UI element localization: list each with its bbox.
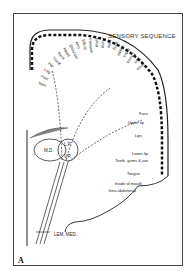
arc-label: Toes <box>37 80 47 88</box>
arc-label: Little <box>106 39 113 49</box>
body-part-label: Teeth, gums & jaw <box>115 158 148 163</box>
label-layer: ToesFootLegHipTrunkNeckHeadShoulderArmEl… <box>0 0 192 274</box>
body-part-label: Intra abdominal <box>108 188 136 193</box>
arc-label: Elbow <box>81 39 88 51</box>
body-part-label: Face <box>139 111 149 116</box>
arc-label: Wrist <box>94 38 99 48</box>
arc-label: Forearm <box>88 38 95 54</box>
body-part-label: Lower lip <box>132 151 149 156</box>
arc-label: Hand <box>100 38 106 48</box>
body-part-label: Upper lip <box>128 120 145 125</box>
thalamus-vp-label: V.P. <box>64 154 72 159</box>
lemniscus-label: LEM. MED. <box>54 232 77 237</box>
body-part-label: Lips <box>135 133 142 138</box>
thalamus-md-label: M.D. <box>44 148 54 153</box>
body-part-label: Inside of mouth <box>115 181 142 186</box>
thalamus-lp-label: L.P. <box>64 142 71 147</box>
body-part-label: Tongue <box>127 171 141 176</box>
